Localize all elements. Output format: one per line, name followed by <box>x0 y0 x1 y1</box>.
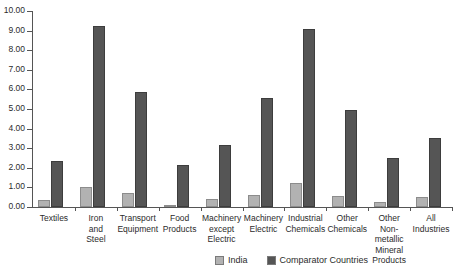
bar-comparator <box>135 92 147 207</box>
y-axis-tick-label: 6.00 <box>0 84 25 93</box>
bar-india <box>206 199 218 207</box>
x-axis-tick <box>410 207 411 211</box>
y-axis-tick <box>27 207 32 208</box>
y-axis-tick-label: 7.00 <box>0 65 25 74</box>
y-axis-tick-label: 0.00 <box>0 202 25 211</box>
x-axis-tick <box>368 207 369 211</box>
legend-item: India <box>215 255 248 265</box>
y-axis-tick <box>27 168 32 169</box>
y-axis-tick-label: 3.00 <box>0 143 25 152</box>
bar-comparator <box>93 26 105 207</box>
bar-india <box>332 196 344 207</box>
x-axis-label-line: All <box>406 213 456 224</box>
x-axis-tick <box>75 207 76 211</box>
bar-comparator <box>387 158 399 207</box>
x-axis-tick <box>243 207 244 211</box>
bar-comparator <box>51 161 63 207</box>
bar-india <box>80 187 92 207</box>
y-axis-tick-label: 10.00 <box>0 6 25 15</box>
bar-group <box>80 11 105 207</box>
y-axis-tick-label: 5.00 <box>0 104 25 113</box>
bar-comparator <box>303 29 315 207</box>
y-axis-tick <box>27 148 32 149</box>
y-axis-tick-label: 1.00 <box>0 182 25 191</box>
x-axis-label-line: Electric <box>197 234 247 245</box>
bar-india <box>122 193 134 207</box>
y-axis-tick <box>27 187 32 188</box>
x-axis-tick <box>201 207 202 211</box>
y-axis-tick <box>27 129 32 130</box>
bar-india <box>416 197 428 207</box>
y-axis-tick <box>27 70 32 71</box>
bar-comparator <box>429 138 441 207</box>
legend-item: Comparator Countries <box>267 255 369 265</box>
x-axis-tick <box>452 207 453 211</box>
y-axis-tick <box>27 31 32 32</box>
bar-group <box>248 11 273 207</box>
y-axis-tick-label: 8.00 <box>0 45 25 54</box>
bar-comparator <box>345 110 357 207</box>
plot-area <box>33 11 452 207</box>
x-axis-tick <box>117 207 118 211</box>
y-axis-tick <box>27 50 32 51</box>
legend-swatch-icon <box>267 256 276 265</box>
x-axis-tick <box>326 207 327 211</box>
bar-comparator <box>177 165 189 207</box>
bar-comparator <box>261 98 273 207</box>
legend-label: India <box>228 255 248 265</box>
chart-legend: IndiaComparator Countries <box>215 255 382 265</box>
legend-swatch-icon <box>215 256 224 265</box>
bar-group <box>290 11 315 207</box>
bar-comparator <box>219 145 231 207</box>
y-axis-tick <box>27 11 32 12</box>
x-axis-label: AllIndustries <box>406 213 456 234</box>
bar-chart: 0.001.002.003.004.005.006.007.008.009.00… <box>0 0 460 274</box>
bar-group <box>164 11 189 207</box>
bar-india <box>290 183 302 207</box>
bar-india <box>38 200 50 207</box>
bar-india <box>164 205 176 207</box>
y-axis-tick <box>27 109 32 110</box>
x-axis-label-line: metallic <box>364 234 414 245</box>
x-axis-label-line: Steel <box>71 234 121 245</box>
bar-india <box>248 195 260 207</box>
legend-label: Comparator Countries <box>280 255 369 265</box>
bar-group <box>332 11 357 207</box>
bar-group <box>416 11 441 207</box>
x-axis-label-line: Mineral <box>364 245 414 256</box>
bar-group <box>206 11 231 207</box>
x-axis-tick <box>284 207 285 211</box>
y-axis-tick-label: 4.00 <box>0 124 25 133</box>
y-axis-tick-label: 9.00 <box>0 26 25 35</box>
x-axis-tick <box>159 207 160 211</box>
bar-group <box>122 11 147 207</box>
bar-group <box>38 11 63 207</box>
y-axis-tick-label: 2.00 <box>0 163 25 172</box>
y-axis-tick <box>27 89 32 90</box>
x-axis-label-line: Industries <box>406 224 456 235</box>
bar-group <box>374 11 399 207</box>
bar-india <box>374 202 386 207</box>
